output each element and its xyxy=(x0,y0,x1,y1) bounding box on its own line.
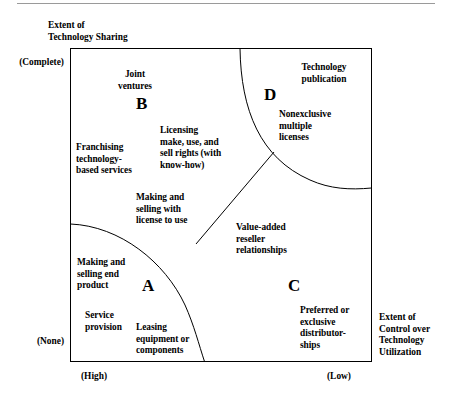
item-joint-ventures-line2: ventures xyxy=(104,81,166,93)
item-nonexclusive-licenses-line3: licenses xyxy=(279,132,365,144)
item-franchising-line1: Franchising xyxy=(76,142,162,154)
item-making-end-line3: product xyxy=(77,280,147,292)
item-franchising-line3: based services xyxy=(76,165,162,177)
item-making-end-line2: selling end xyxy=(77,269,147,281)
item-value-added-reseller: Value-added reseller relationships xyxy=(236,222,320,257)
item-licensing-line2: make, use, and xyxy=(160,137,244,149)
item-technology-publication-line2: publication xyxy=(285,74,363,86)
item-making-selling-license-line2: selling with xyxy=(136,204,216,216)
item-value-added-reseller-line1: Value-added xyxy=(236,222,320,234)
x-axis-title-line2: Control over xyxy=(379,324,451,336)
item-preferred-line3: distributor- xyxy=(300,328,380,340)
item-making-selling-license-line3: license to use xyxy=(136,215,216,227)
item-licensing-line1: Licensing xyxy=(160,125,244,137)
item-nonexclusive-licenses: Nonexclusive multiple licenses xyxy=(279,109,365,144)
item-licensing: Licensing make, use, and sell rights (wi… xyxy=(160,125,244,171)
item-leasing-equipment: Leasing equipment or components xyxy=(136,322,216,357)
item-joint-ventures-line1: Joint xyxy=(104,69,166,81)
item-leasing-line1: Leasing xyxy=(136,322,216,334)
technology-sharing-control-matrix: Extent of Technology Sharing (Complete) … xyxy=(0,0,452,394)
y-axis-title: Extent of Technology Sharing xyxy=(48,20,228,43)
item-licensing-line4: know-how) xyxy=(160,160,244,172)
item-franchising: Franchising technology- based services xyxy=(76,142,162,177)
item-preferred-line4: ships xyxy=(300,340,380,352)
item-nonexclusive-licenses-line2: multiple xyxy=(279,121,365,133)
quadrant-d-letter: D xyxy=(264,86,276,103)
y-axis-title-line1: Extent of xyxy=(48,20,228,32)
item-preferred-line1: Preferred or xyxy=(300,305,380,317)
item-leasing-line2: equipment or xyxy=(136,334,216,346)
item-making-end-line1: Making and xyxy=(77,257,147,269)
item-making-selling-end-product: Making and selling end product xyxy=(77,257,147,292)
quadrant-c-letter: C xyxy=(288,277,300,294)
item-preferred-exclusive-distributorships: Preferred or exclusive distributor- ship… xyxy=(300,305,380,351)
item-service-provision-line1: Service xyxy=(85,310,149,322)
top-divider-rule xyxy=(17,3,435,4)
x-axis-title-line3: Technology xyxy=(379,335,451,347)
x-axis-title-line4: Utilization xyxy=(379,347,451,359)
quadrant-b-letter: B xyxy=(136,95,147,112)
item-making-selling-license-line1: Making and xyxy=(136,192,216,204)
y-axis-title-line2: Technology Sharing xyxy=(48,32,228,44)
x-axis-title: Extent of Control over Technology Utiliz… xyxy=(379,312,451,358)
item-leasing-line3: components xyxy=(136,345,216,357)
item-preferred-line2: exclusive xyxy=(300,317,380,329)
quadrant-a-letter: A xyxy=(142,277,154,294)
y-axis-tick-complete: (Complete) xyxy=(2,57,64,69)
item-technology-publication: Technology publication xyxy=(285,62,363,85)
item-joint-ventures: Joint ventures xyxy=(104,69,166,92)
item-nonexclusive-licenses-line1: Nonexclusive xyxy=(279,109,365,121)
y-axis-tick-none: (None) xyxy=(2,336,64,348)
x-axis-title-line1: Extent of xyxy=(379,312,451,324)
x-axis-tick-high: (High) xyxy=(81,371,151,383)
item-value-added-reseller-line2: reseller xyxy=(236,234,320,246)
item-technology-publication-line1: Technology xyxy=(285,62,363,74)
item-licensing-line3: sell rights (with xyxy=(160,148,244,160)
item-franchising-line2: technology- xyxy=(76,154,162,166)
x-axis-tick-low: (Low) xyxy=(327,371,397,383)
item-value-added-reseller-line3: relationships xyxy=(236,245,320,257)
item-making-selling-license: Making and selling with license to use xyxy=(136,192,216,227)
